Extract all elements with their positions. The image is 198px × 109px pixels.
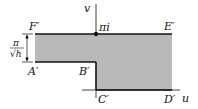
label-c-prime: C′ — [98, 93, 109, 106]
label-f-prime: F′ — [28, 20, 40, 33]
dimension-denominator: √h — [10, 49, 22, 59]
label-v-axis: v — [84, 2, 91, 15]
label-pi-i: πi — [98, 21, 110, 34]
label-e-prime: E′ — [163, 20, 175, 33]
dimension-arrowhead-up — [25, 35, 28, 39]
label-a-prime: A′ — [27, 65, 39, 78]
dimension-numerator: π — [12, 38, 20, 48]
label-u-axis: u — [182, 92, 189, 105]
dimension-arrowhead-down — [25, 58, 28, 62]
label-b-prime: B′ — [78, 65, 90, 78]
label-d-prime: D′ — [163, 93, 176, 106]
diagram-canvas: v u πi F′ E′ A′ B′ C′ D′ π √h — [0, 0, 198, 109]
point-pi-i-dot — [94, 32, 98, 36]
